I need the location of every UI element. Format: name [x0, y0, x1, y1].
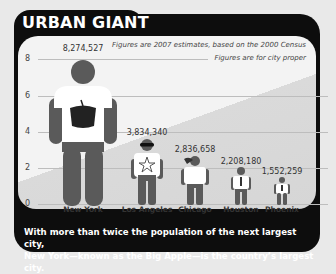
category-chicago: Chicago	[178, 205, 211, 214]
category-phoenix: Phoenix	[265, 205, 299, 214]
value-phoenix: 1,552,259	[262, 167, 303, 176]
y-tick-2: 2	[20, 163, 30, 172]
chart-caption: With more than twice the population of t…	[24, 226, 314, 274]
category-los-angeles: Los Angeles	[122, 205, 173, 214]
chart-title: URBAN GIANT	[22, 13, 149, 32]
chicago-figure-icon	[181, 156, 209, 205]
y-tick-6: 6	[20, 91, 30, 100]
y-tick-8: 8	[20, 54, 30, 63]
phoenix-figure-icon	[274, 177, 290, 205]
houston-figure-icon	[231, 167, 251, 205]
value-los-angeles: 3,834,340	[127, 128, 168, 137]
caption-line-1: With more than twice the population of t…	[24, 226, 314, 250]
new-york-figure-icon	[48, 60, 118, 206]
value-houston: 2,208,180	[221, 157, 262, 166]
y-tick-0: 0	[20, 199, 30, 208]
caption-line-2: New York—known as the Big Apple—is the c…	[24, 250, 314, 274]
category-houston: Houston	[223, 205, 258, 214]
y-tick-4: 4	[20, 127, 30, 136]
value-chicago: 2,836,658	[175, 145, 216, 154]
note-census: Figures are 2007 estimates, based on the…	[112, 41, 306, 49]
value-new-york: 8,274,527	[63, 44, 104, 53]
category-new-york: New York	[63, 205, 103, 214]
los-angeles-figure-icon	[130, 139, 164, 205]
note-city-proper: Figures are for city proper	[214, 54, 306, 62]
